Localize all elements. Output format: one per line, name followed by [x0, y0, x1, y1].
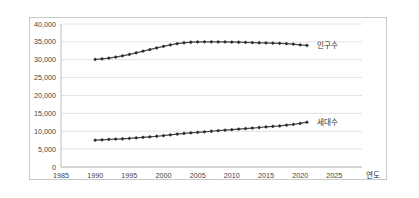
data-point-marker: [196, 40, 200, 44]
line-chart-svg: 05,00010,00015,00020,00025,00030,00035,0…: [0, 0, 419, 198]
data-point-marker: [114, 137, 118, 141]
y-tick-label: 25,000: [34, 73, 56, 82]
data-point-marker: [100, 57, 104, 61]
data-point-marker: [209, 129, 213, 133]
data-point-marker: [162, 44, 166, 48]
data-point-marker: [237, 40, 241, 44]
data-point-marker: [155, 134, 159, 138]
series-label-세대수: 세대수: [317, 118, 338, 127]
data-point-marker: [230, 40, 234, 44]
data-point-marker: [244, 127, 248, 131]
data-point-marker: [285, 42, 289, 46]
data-point-marker: [93, 57, 97, 61]
data-point-marker: [175, 132, 179, 136]
data-point-marker: [278, 124, 282, 128]
data-point-marker: [141, 49, 145, 53]
data-point-marker: [223, 40, 227, 44]
data-point-marker: [148, 48, 152, 52]
chart-container: 05,00010,00015,00020,00025,00030,00035,0…: [0, 0, 419, 198]
data-point-marker: [162, 134, 166, 138]
y-tick-label: 5,000: [38, 145, 56, 154]
y-tick-label: 20,000: [34, 91, 56, 100]
x-tick-label: 2005: [190, 171, 206, 180]
data-point-marker: [182, 131, 186, 135]
data-point-marker: [175, 42, 179, 46]
data-point-marker: [93, 138, 97, 142]
data-point-marker: [134, 136, 138, 140]
y-tick-label: 35,000: [34, 37, 56, 46]
data-point-marker: [168, 43, 172, 47]
series-label-인구수: 인구수: [317, 40, 338, 50]
data-point-marker: [141, 135, 145, 139]
data-point-marker: [264, 125, 268, 129]
data-point-marker: [107, 138, 111, 142]
data-point-marker: [209, 40, 213, 44]
x-tick-label: 1995: [121, 171, 137, 180]
y-tick-label: 30,000: [34, 55, 56, 64]
series-inline-labels: 인구수세대수: [317, 40, 338, 127]
data-point-marker: [271, 125, 275, 129]
data-point-marker: [203, 40, 207, 44]
data-point-marker: [121, 137, 125, 141]
data-point-marker: [216, 129, 220, 133]
data-point-marker: [100, 138, 104, 142]
data-point-marker: [155, 46, 159, 50]
data-point-marker: [189, 40, 193, 44]
y-tick-label: 15,000: [34, 109, 56, 118]
data-point-marker: [134, 51, 138, 55]
data-point-marker: [250, 41, 254, 45]
data-point-marker: [244, 41, 248, 45]
data-point-marker: [257, 126, 261, 130]
x-axis-title-label: 연도: [366, 171, 380, 180]
data-point-marker: [298, 43, 302, 47]
x-tick-label: 2025: [326, 171, 342, 180]
data-point-marker: [291, 123, 295, 127]
data-point-marker: [203, 130, 207, 134]
data-point-marker: [168, 133, 172, 137]
x-axis-title: 연도: [366, 171, 380, 180]
x-tick-label: 2020: [292, 171, 308, 180]
y-tick-label: 10,000: [34, 127, 56, 136]
x-tick-label: 1990: [87, 171, 103, 180]
data-point-marker: [298, 121, 302, 125]
data-point-marker: [257, 41, 261, 45]
data-point-marker: [114, 55, 118, 59]
x-tick-label: 2010: [224, 171, 240, 180]
x-tick-label: 2000: [156, 171, 172, 180]
data-point-marker: [250, 126, 254, 130]
x-tick-label: 1985: [53, 171, 69, 180]
y-tick-label: 40,000: [34, 20, 56, 29]
data-point-marker: [127, 52, 131, 56]
series-line-인구수: [95, 42, 307, 60]
data-point-marker: [127, 137, 131, 141]
series-group: [93, 40, 309, 142]
data-point-marker: [237, 127, 241, 131]
data-point-marker: [148, 135, 152, 139]
x-axis-tick-labels: 198519901995200020052010201520202025: [53, 171, 342, 180]
x-tick-label: 2015: [258, 171, 274, 180]
data-point-marker: [285, 123, 289, 127]
data-point-marker: [182, 41, 186, 45]
data-point-marker: [305, 44, 309, 48]
data-point-marker: [305, 120, 309, 124]
data-point-marker: [216, 40, 220, 44]
y-axis-tick-labels: 05,00010,00015,00020,00025,00030,00035,0…: [34, 20, 56, 172]
data-point-marker: [291, 42, 295, 46]
data-point-marker: [121, 54, 125, 58]
